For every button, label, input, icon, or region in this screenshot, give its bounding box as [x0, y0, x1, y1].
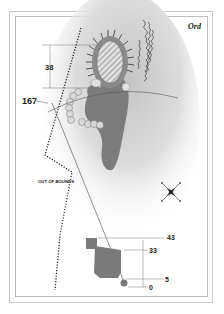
out-of-bounds-label: OUT OF BOUNDS	[38, 179, 74, 184]
hole-name: Ord	[188, 22, 202, 31]
green-depth-label: 38	[45, 63, 53, 72]
bunker-right	[122, 83, 130, 91]
tee-marker-43: 43	[167, 234, 175, 241]
tee-marker-0: 0	[149, 284, 153, 291]
tee-marker-5: 5	[165, 276, 169, 283]
hole-map: 38 167 OUT OF BOUNDS 43 33 5 0 Ord	[0, 0, 224, 314]
carry-label: 167	[22, 96, 37, 106]
bunker-left	[91, 79, 101, 87]
front-tee	[121, 280, 128, 287]
putting-surface	[97, 41, 123, 83]
main-tee	[94, 246, 121, 278]
tee-marker-33: 33	[149, 247, 157, 254]
